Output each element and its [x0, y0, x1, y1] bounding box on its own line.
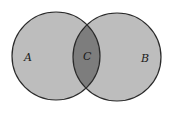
set-b-label: B	[140, 52, 149, 65]
set-a-label: A	[23, 51, 32, 64]
intersection-label: C	[83, 50, 92, 63]
venn-diagram: A C B	[0, 0, 174, 114]
